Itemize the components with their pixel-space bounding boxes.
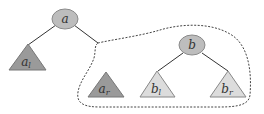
edge-b-bl (158, 53, 183, 71)
edge-a-al (28, 25, 56, 45)
edge-b-br (202, 53, 228, 71)
edge-a-b (74, 25, 98, 43)
tree-diagram: a al ar b bl br (0, 0, 264, 114)
node-a-label: a (61, 12, 68, 26)
node-b-label: b (188, 38, 196, 52)
